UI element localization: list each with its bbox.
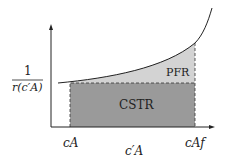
x-tick-end: cAf xyxy=(185,136,205,150)
y-label-numerator: 1 xyxy=(24,64,32,78)
x-axis-arrow xyxy=(209,125,215,129)
y-axis-arrow xyxy=(49,24,53,30)
levenspiel-diagram: 1 r(c′A) PFR CSTR cA cAf c′A xyxy=(0,0,227,166)
y-label-denominator: r(c′A) xyxy=(12,81,42,94)
pfr-label: PFR xyxy=(166,66,189,79)
cstr-label: CSTR xyxy=(119,98,153,112)
x-tick-start: cA xyxy=(63,136,78,150)
x-axis-label: c′A xyxy=(125,144,143,158)
